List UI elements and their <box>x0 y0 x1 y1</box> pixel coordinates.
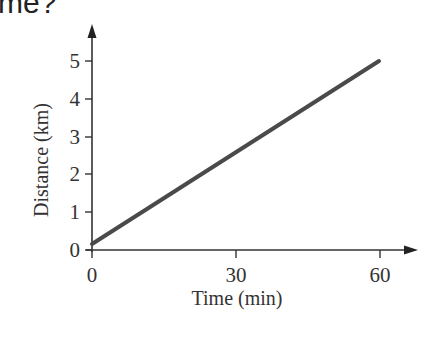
y-tick-label-3: 3 <box>70 125 81 149</box>
y-ticks <box>85 61 92 250</box>
y-tick-label-1: 1 <box>70 200 81 224</box>
x-axis-title: Time (min) <box>192 287 283 310</box>
y-tick-label-5: 5 <box>70 49 81 73</box>
x-axis-arrow-icon <box>404 246 418 255</box>
x-tick-label-30: 30 <box>226 263 247 287</box>
y-tick-label-2: 2 <box>70 162 81 186</box>
y-axis-arrow-icon <box>88 24 97 38</box>
y-axis-title: Distance (km) <box>30 103 53 217</box>
distance-time-chart: 0 1 2 3 4 5 0 30 60 Time (min) Distance … <box>0 0 433 342</box>
y-tick-label-4: 4 <box>70 87 81 111</box>
x-tick-label-60: 60 <box>370 263 391 287</box>
x-ticks <box>92 250 380 258</box>
y-tick-label-0: 0 <box>70 238 81 262</box>
distance-line <box>92 61 379 244</box>
x-tick-label-0: 0 <box>87 263 98 287</box>
